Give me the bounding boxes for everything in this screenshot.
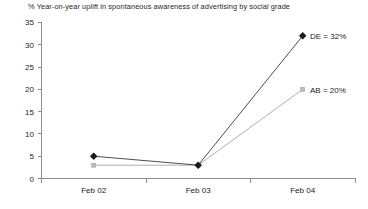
y-tick-label: 35 — [25, 18, 34, 27]
annotation-ab: AB = 20% — [310, 86, 346, 95]
y-axis-ticks — [38, 22, 42, 178]
series-line-de — [94, 36, 303, 165]
y-tick-label: 10 — [25, 130, 34, 139]
y-tick-label: 5 — [30, 152, 35, 161]
x-tick-label: Feb 03 — [186, 186, 211, 195]
x-axis-ticks — [42, 179, 356, 184]
x-tick-label: Feb 02 — [81, 186, 106, 195]
y-tick-label: 25 — [25, 63, 34, 72]
y-tick-label: 20 — [25, 85, 34, 94]
x-axis-labels: Feb 02 Feb 03 Feb 04 — [81, 186, 315, 195]
series-line-ab — [94, 89, 303, 165]
y-tick-label: 30 — [25, 41, 34, 50]
x-tick-label: Feb 04 — [290, 186, 315, 195]
series-markers-de — [90, 32, 306, 168]
series-markers-ab — [92, 87, 305, 167]
chart-plot-area: 0 5 10 15 20 25 30 35 Feb 02 Feb 03 Feb … — [0, 0, 368, 209]
y-axis-labels: 0 5 10 15 20 25 30 35 — [25, 18, 34, 183]
annotation-de: DE = 32% — [310, 32, 346, 41]
y-tick-label: 0 — [30, 175, 35, 184]
y-tick-label: 15 — [25, 108, 34, 117]
chart-container: % Year-on-year uplift in spontaneous awa… — [0, 0, 368, 209]
